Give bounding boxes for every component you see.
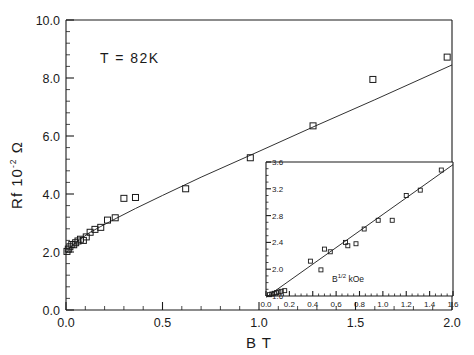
tick-label: 0.8 [354, 300, 366, 309]
tick-label: 0.4 [307, 300, 319, 309]
main-y-axis-title: Rf 10-2 Ω [8, 141, 25, 209]
main-y-axis-title-exponent: -2 [8, 158, 18, 168]
tick-label: 1.0 [250, 316, 267, 330]
tick-label: 1.2 [401, 300, 413, 309]
tick-label: 0.2 [284, 300, 296, 309]
tick-label: 0.6 [331, 300, 343, 309]
inset-x-axis-title-unit: kOe [348, 274, 364, 284]
tick-label: 0.5 [154, 316, 171, 330]
temperature-annotation: T = 82K [100, 50, 160, 66]
tick-label: 3.6 [272, 158, 284, 167]
inset-x-tick-labels: 0.00.20.40.60.81.01.21.41.6 [260, 300, 459, 309]
main-x-tick-labels: 0.00.51.01.52.0 [57, 316, 460, 330]
figure-canvas: 0.00.51.01.52.0 0.02.04.06.08.010.0 B T … [0, 0, 474, 355]
tick-label: 8.0 [43, 72, 60, 86]
scientific-figure: 0.00.51.01.52.0 0.02.04.06.08.010.0 B T … [0, 0, 474, 355]
tick-label: 10.0 [36, 14, 60, 28]
data-point-marker [121, 195, 127, 201]
main-y-tick-labels: 0.02.04.06.08.010.0 [36, 14, 60, 318]
main-y-axis-title-text: Rf 10 [8, 168, 25, 209]
tick-label: 1.5 [347, 316, 364, 330]
main-y-ticks [66, 20, 74, 310]
tick-label: 0.0 [57, 316, 74, 330]
tick-label: 1.6 [272, 292, 284, 301]
data-point-marker [183, 186, 189, 192]
tick-label: 0.0 [260, 300, 272, 309]
inset-x-axis-title: B1/2 kOe [332, 273, 364, 284]
svg-text:Rf 10-2 Ω: Rf 10-2 Ω [8, 141, 25, 209]
inset-plot: 0.00.20.40.60.81.01.21.41.6 1.62.02.42.8… [260, 158, 459, 309]
tick-label: 2.8 [272, 212, 284, 221]
main-y-axis-title-unit: Ω [8, 141, 25, 153]
tick-label: 1.6 [447, 300, 459, 309]
tick-label: 0.0 [43, 304, 60, 318]
tick-label: 6.0 [43, 130, 60, 144]
data-point-marker [132, 194, 138, 200]
tick-label: 1.4 [424, 300, 436, 309]
tick-label: 2.0 [43, 246, 60, 260]
tick-label: 4.0 [43, 188, 60, 202]
main-x-axis-title: B T [246, 334, 272, 351]
tick-label: 3.2 [272, 185, 284, 194]
data-point-marker [370, 76, 376, 82]
tick-label: 2.4 [272, 238, 284, 247]
main-x-ticks [66, 302, 452, 310]
tick-label: 2.0 [272, 265, 284, 274]
data-point-marker [444, 54, 450, 60]
tick-label: 2.0 [443, 316, 460, 330]
tick-label: 1.0 [377, 300, 389, 309]
